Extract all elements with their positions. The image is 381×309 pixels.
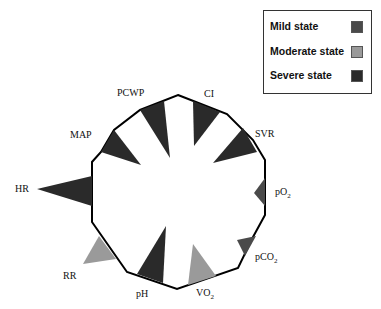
triangle-pco2 [237,236,256,256]
label-pco2: pCO2 [255,251,278,265]
label-map: MAP [70,129,92,140]
label-rr: RR [63,270,77,281]
decagon-outline [92,95,265,289]
triangle-ph [137,226,166,283]
label-vo2: VO2 [196,287,214,301]
label-ci: CI [204,88,214,99]
severity-diagram: PCWP CI SVR pO2 pCO2 VO2 pH RR HR MAP [0,0,381,309]
triangle-vo2 [188,244,216,285]
triangle-pcwp [140,101,170,158]
label-po2: pO2 [275,186,291,200]
label-hr: HR [15,183,29,194]
triangle-po2 [254,178,265,206]
triangle-map [101,130,141,165]
label-svr: SVR [255,128,275,139]
triangle-svr [213,128,257,163]
triangle-ci [193,101,220,146]
label-pcwp: PCWP [117,87,145,98]
label-ph: pH [136,288,148,299]
triangle-hr [37,176,92,206]
